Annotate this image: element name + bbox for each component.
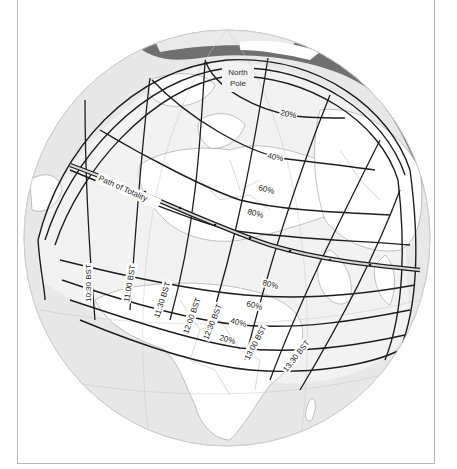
- svg-text:Pole: Pole: [230, 79, 247, 88]
- north-pole-label: North Pole: [222, 66, 254, 92]
- svg-text:10:30 BST: 10:30 BST: [84, 264, 93, 302]
- eclipse-globe-map: North Pole Path of Totality 20% 40% 60% …: [0, 0, 457, 469]
- svg-text:North: North: [228, 68, 248, 77]
